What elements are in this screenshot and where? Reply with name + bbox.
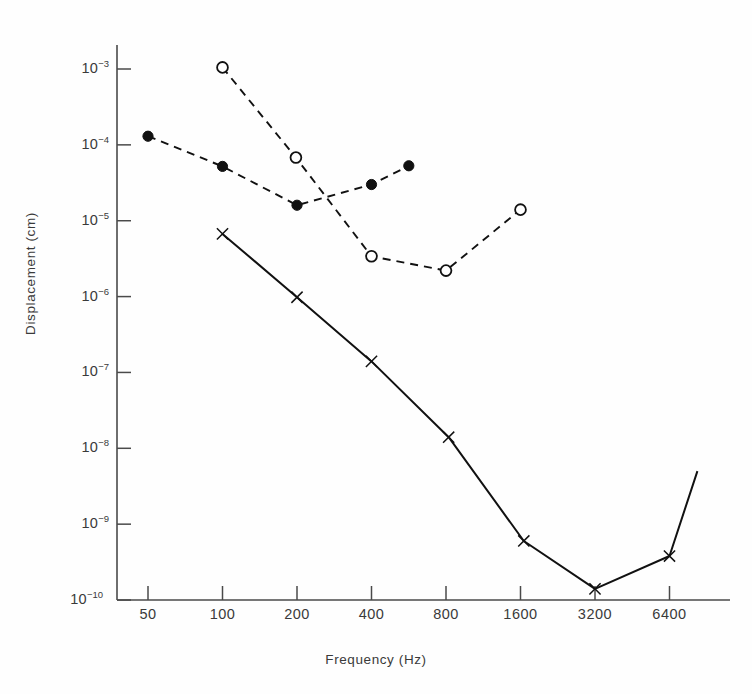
y-tick-label: 10−4: [53, 134, 109, 152]
series-line-open-circle: [223, 67, 521, 270]
x-tick-label: 3200: [565, 606, 625, 622]
x-tick-label: 50: [118, 606, 178, 622]
y-tick-label: 10−7: [53, 361, 109, 379]
data-point-filled-circle: [143, 131, 153, 141]
series-filled-circle-series: [143, 131, 414, 210]
y-axis-label: Displacement (cm): [23, 174, 38, 374]
x-tick-label: 6400: [640, 606, 700, 622]
y-tick-label: 10−6: [53, 286, 109, 304]
x-tick-label: 100: [193, 606, 253, 622]
data-point-cross: [443, 432, 454, 443]
series-open-circle-series: [217, 62, 526, 276]
chart-figure: Displacement (cm) Frequency (Hz) 10−310−…: [0, 0, 752, 694]
y-tick-label: 10−10: [47, 589, 103, 607]
data-point-filled-circle: [404, 161, 414, 171]
y-tick-label: 10−3: [53, 58, 109, 76]
x-axis-label: Frequency (Hz): [236, 652, 516, 667]
data-point-filled-circle: [292, 200, 302, 210]
chart-plot-area: [0, 0, 752, 694]
data-point-cross: [518, 535, 529, 546]
data-point-cross: [291, 292, 302, 303]
x-tick-label: 800: [416, 606, 476, 622]
data-point-filled-circle: [217, 161, 227, 171]
y-tick-label: 10−8: [53, 437, 109, 455]
x-tick-label: 200: [267, 606, 327, 622]
series-line-filled-circle: [148, 136, 409, 205]
series-line-cross: [223, 234, 698, 589]
data-series-layer: [143, 62, 698, 595]
data-point-cross: [366, 356, 377, 367]
axis-lines: [117, 45, 730, 600]
data-point-open-circle: [366, 251, 377, 262]
y-tick-label: 10−9: [53, 513, 109, 531]
data-point-cross: [664, 550, 675, 561]
data-point-cross: [217, 228, 228, 239]
data-point-open-circle: [291, 152, 302, 163]
x-tick-label: 400: [342, 606, 402, 622]
y-tick-label: 10−5: [53, 210, 109, 228]
data-point-open-circle: [441, 265, 452, 276]
data-point-open-circle: [515, 204, 526, 215]
x-tick-label: 1600: [491, 606, 551, 622]
y-axis-ticks: [117, 69, 131, 600]
data-point-open-circle: [217, 62, 228, 73]
data-point-filled-circle: [366, 179, 376, 189]
series-cross-marker-series: [217, 228, 698, 594]
